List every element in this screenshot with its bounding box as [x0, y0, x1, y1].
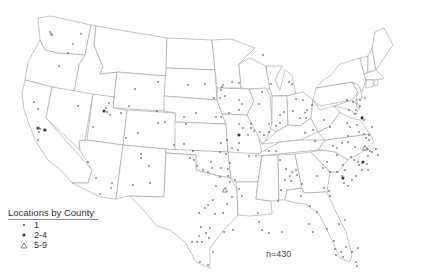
location-point: [257, 212, 259, 214]
location-point: [238, 82, 240, 84]
location-point: [199, 261, 201, 263]
location-point: [280, 189, 282, 191]
location-point: [363, 119, 365, 121]
location-point: [258, 221, 260, 223]
location-point: [354, 146, 356, 148]
location-point: [341, 142, 343, 144]
location-point: [220, 142, 222, 144]
location-point: [195, 112, 197, 114]
large-dot-icon: [18, 232, 30, 238]
legend: Locations by County 1 2-4 5-9: [8, 207, 98, 250]
legend-item-5-9: 5-9: [18, 240, 98, 250]
location-point: [322, 167, 324, 169]
location-point: [237, 149, 239, 151]
location-point: [301, 183, 303, 185]
location-point: [291, 171, 293, 173]
location-point-large: [103, 110, 106, 113]
location-point: [37, 108, 39, 110]
location-point: [241, 195, 243, 197]
location-point: [215, 185, 217, 187]
location-point: [312, 231, 314, 233]
state-wyoming: [113, 72, 166, 111]
state-iowa: [217, 88, 254, 115]
location-point: [185, 123, 187, 125]
location-point: [288, 81, 290, 83]
location-point: [219, 176, 221, 178]
location-point: [120, 112, 122, 114]
location-point: [341, 175, 343, 177]
location-point: [140, 157, 142, 159]
location-point: [192, 150, 194, 152]
location-point: [157, 81, 159, 83]
location-point: [242, 127, 244, 129]
location-point: [231, 81, 233, 83]
location-point: [268, 131, 270, 133]
location-point: [219, 97, 221, 99]
location-point: [326, 228, 328, 230]
location-point: [226, 203, 228, 205]
location-point: [77, 105, 79, 107]
location-point: [164, 121, 166, 123]
location-point: [227, 168, 229, 170]
location-point: [209, 227, 211, 229]
location-point: [212, 251, 214, 253]
location-point: [220, 89, 222, 91]
location-point: [296, 174, 298, 176]
location-point: [227, 175, 229, 177]
location-point: [211, 167, 213, 169]
location-point: [229, 162, 231, 164]
location-point: [223, 231, 225, 233]
location-point: [212, 199, 214, 201]
location-point: [351, 179, 353, 181]
location-point: [109, 114, 111, 116]
location-point: [369, 150, 371, 152]
location-point: [187, 84, 189, 86]
state-colorado: [123, 110, 176, 150]
location-point: [333, 240, 335, 242]
location-point: [329, 126, 331, 128]
location-point: [304, 132, 306, 134]
location-point: [39, 128, 41, 130]
location-point: [228, 112, 230, 114]
location-point: [344, 169, 346, 171]
location-point: [67, 52, 69, 54]
location-point: [205, 232, 207, 234]
location-point: [173, 144, 175, 146]
location-point: [357, 161, 359, 163]
location-point: [361, 169, 363, 171]
location-point: [292, 110, 294, 112]
location-point: [200, 226, 202, 228]
state-florida: [285, 188, 352, 262]
location-point: [268, 150, 270, 152]
location-point: [340, 251, 342, 253]
location-point: [198, 212, 200, 214]
location-point: [305, 117, 307, 119]
location-point: [270, 83, 272, 85]
location-point: [336, 171, 338, 173]
location-point: [263, 134, 265, 136]
sample-size-label: n=430: [266, 249, 291, 259]
location-point: [208, 237, 210, 239]
state-south-dakota: [164, 68, 217, 100]
location-point: [338, 223, 340, 225]
location-point: [248, 155, 250, 157]
location-point: [367, 155, 369, 157]
location-point: [295, 98, 297, 100]
location-point: [336, 147, 338, 149]
small-dot-icon: [18, 222, 30, 228]
location-point: [238, 99, 240, 101]
location-point: [204, 207, 206, 209]
location-point: [332, 145, 334, 147]
location-point: [275, 150, 277, 152]
location-point: [92, 126, 94, 128]
location-point: [262, 54, 264, 56]
location-point: [268, 232, 270, 234]
location-point: [99, 193, 101, 195]
location-point: [125, 137, 127, 139]
location-point: [291, 83, 293, 85]
location-point: [111, 182, 113, 184]
location-point: [371, 126, 373, 128]
location-point: [284, 179, 286, 181]
location-point: [259, 131, 261, 133]
location-point: [222, 84, 224, 86]
